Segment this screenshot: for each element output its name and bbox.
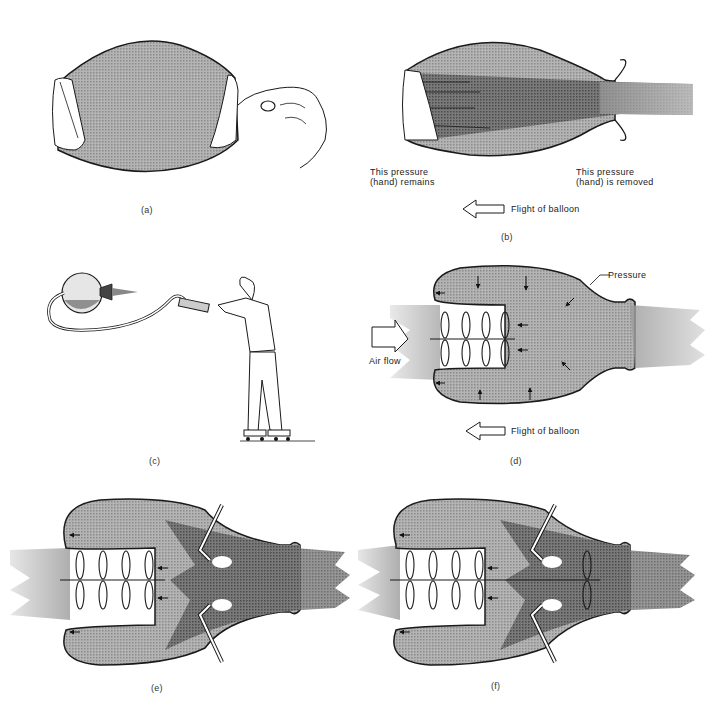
- caption-c: (c): [149, 456, 160, 466]
- panel-e-balloon-combustion: [10, 499, 350, 665]
- panel-d-balloon-engine-intake: [372, 266, 705, 440]
- panel-f-balloon-turbine: [358, 499, 695, 665]
- label-air-flow: Air flow: [369, 356, 401, 366]
- flame-icon: [212, 599, 232, 611]
- caption-f: (f): [491, 681, 500, 691]
- flame-icon: [212, 556, 232, 568]
- compressor-fans-icon: [60, 551, 165, 609]
- jet-exhaust-icon: [112, 288, 138, 296]
- right-hand-icon: [238, 87, 326, 168]
- caption-e: (e): [151, 683, 163, 693]
- label-pressure: Pressure: [608, 270, 646, 280]
- air-nozzle-icon: [178, 298, 209, 312]
- diagram-canvas: [0, 0, 719, 705]
- man-on-skates-icon: [218, 277, 290, 436]
- caption-a: (a): [141, 205, 153, 215]
- label-flight-of-balloon-b: Flight of balloon: [511, 204, 580, 214]
- flame-icon: [542, 556, 562, 568]
- flight-arrow-icon: [463, 200, 504, 218]
- label-pressure-remains: This pressure (hand) remains: [370, 167, 435, 187]
- panel-b-balloon-released: [403, 42, 694, 218]
- label-pressure-removed: This pressure (hand) is removed: [576, 167, 654, 187]
- caption-d: (d): [510, 456, 522, 466]
- panel-c-man-with-balloon: [49, 273, 315, 441]
- compressor-fans-icon: [430, 312, 515, 366]
- label-flight-of-balloon-d: Flight of balloon: [511, 426, 580, 436]
- panel-a-balloon-held: [53, 41, 327, 171]
- flight-arrow-icon: [466, 422, 505, 440]
- caption-b: (b): [501, 232, 513, 242]
- flame-icon: [542, 599, 562, 611]
